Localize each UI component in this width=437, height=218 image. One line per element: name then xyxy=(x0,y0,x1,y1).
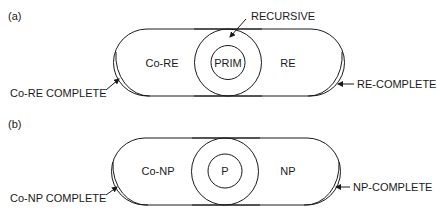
recursive-arrow xyxy=(230,19,246,37)
np-complete-label: NP-COMPLETE xyxy=(353,181,432,193)
diagram-b: (b) P Co-NP NP Co-NP COMPLETE NP-COMPLET… xyxy=(8,118,432,205)
re-complete-label: RE-COMPLETE xyxy=(357,78,436,90)
panel-label-b: (b) xyxy=(8,118,21,130)
co-np-complete-arrow xyxy=(106,187,117,195)
co-np-label: Co-NP xyxy=(141,165,174,177)
np-region xyxy=(192,138,341,205)
prim-label: PRIM xyxy=(214,57,242,69)
co-np-complete-label: Co-NP COMPLETE xyxy=(10,192,106,204)
re-complete-region xyxy=(308,52,342,96)
p-label: P xyxy=(221,165,228,177)
np-complete-region xyxy=(304,162,339,205)
co-re-label: Co-RE xyxy=(145,57,178,69)
np-label: NP xyxy=(280,165,295,177)
complexity-class-diagrams: (a) PRIM Co-RE RE RECURSIVE Co-RE COMPLE… xyxy=(0,0,437,218)
co-re-complete-label: Co-RE COMPLETE xyxy=(10,87,107,99)
diagram-a: (a) PRIM Co-RE RE RECURSIVE Co-RE COMPLE… xyxy=(8,10,436,99)
co-re-complete-arrow xyxy=(106,79,119,90)
recursive-label: RECURSIVE xyxy=(251,10,315,22)
re-label: RE xyxy=(280,57,295,69)
co-np-region xyxy=(112,138,261,205)
panel-label-a: (a) xyxy=(8,10,21,22)
